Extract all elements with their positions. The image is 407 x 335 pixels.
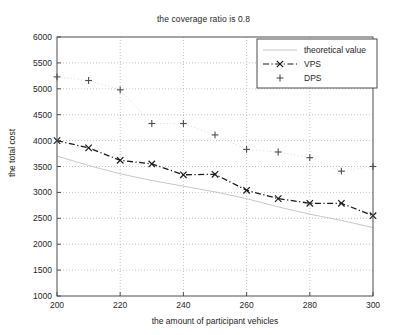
y-axis-label: the total cost (7, 113, 17, 193)
chart-legend: theoretical valueVPSDPS (257, 39, 377, 88)
legend-label: theoretical value (304, 45, 366, 55)
svg-text:1500: 1500 (33, 265, 52, 275)
svg-text:5500: 5500 (33, 58, 52, 68)
svg-text:4500: 4500 (33, 110, 52, 120)
chart-figure: the coverage ratio is 0.8 20022024026028… (0, 0, 407, 335)
legend-label: DPS (304, 73, 322, 83)
svg-text:280: 280 (303, 300, 317, 310)
svg-text:3000: 3000 (33, 187, 52, 197)
svg-text:300: 300 (366, 300, 380, 310)
svg-text:220: 220 (113, 300, 127, 310)
svg-text:240: 240 (176, 300, 190, 310)
svg-text:4000: 4000 (33, 136, 52, 146)
svg-text:260: 260 (240, 300, 254, 310)
svg-text:200: 200 (50, 300, 64, 310)
plot-canvas: 200220240260280300 100015002000250030003… (0, 0, 407, 335)
svg-text:2500: 2500 (33, 213, 52, 223)
legend-label: VPS (304, 59, 321, 69)
x-axis-label: the amount of participant vehicles (57, 316, 373, 326)
svg-text:2000: 2000 (33, 239, 52, 249)
svg-text:5000: 5000 (33, 84, 52, 94)
svg-text:1000: 1000 (33, 291, 52, 301)
svg-text:3500: 3500 (33, 162, 52, 172)
svg-text:6000: 6000 (33, 32, 52, 42)
